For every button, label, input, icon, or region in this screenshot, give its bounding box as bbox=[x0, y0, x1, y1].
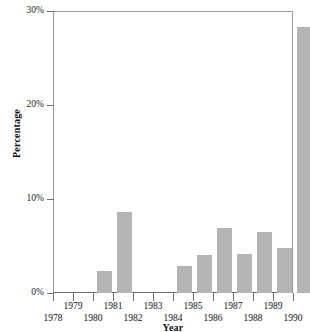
bars-layer bbox=[53, 11, 293, 293]
x-axis-tick bbox=[233, 293, 234, 301]
x-axis-tick bbox=[113, 293, 114, 301]
bar-chart: 0%10%20%30% Percentage 19781979198019811… bbox=[0, 0, 310, 332]
x-axis-tick bbox=[293, 293, 294, 301]
y-axis-tick-label: 0% bbox=[0, 288, 44, 298]
y-axis-tick-label: 10% bbox=[0, 194, 44, 204]
bar-1987 bbox=[237, 254, 252, 293]
bar-1984 bbox=[177, 266, 192, 293]
bar-1988 bbox=[257, 232, 272, 293]
x-axis-tick-label: 1985 bbox=[172, 301, 214, 311]
bar-1990 bbox=[297, 27, 310, 293]
x-axis-tick-label: 1983 bbox=[132, 301, 174, 311]
bar-1980 bbox=[97, 271, 112, 293]
x-axis-title: Year bbox=[53, 322, 293, 332]
bar-1986 bbox=[217, 228, 232, 293]
x-axis-tick-label: 1989 bbox=[252, 301, 294, 311]
bar-1985 bbox=[197, 255, 212, 293]
x-axis-tick bbox=[173, 293, 174, 301]
x-axis-tick bbox=[53, 293, 54, 301]
x-axis-tick-label: 1981 bbox=[92, 301, 134, 311]
y-axis-tick-label: 30% bbox=[0, 6, 44, 16]
x-axis-tick bbox=[213, 293, 214, 301]
x-axis-tick bbox=[133, 293, 134, 301]
x-axis-tick bbox=[273, 293, 274, 301]
x-axis-tick bbox=[153, 293, 154, 301]
x-axis-tick bbox=[93, 293, 94, 301]
x-axis-tick bbox=[193, 293, 194, 301]
x-axis-tick-label: 1979 bbox=[52, 301, 94, 311]
y-axis-tick-label: 20% bbox=[0, 100, 44, 110]
bar-1989 bbox=[277, 248, 292, 293]
bar-1981 bbox=[117, 212, 132, 293]
y-axis-title: Percentage bbox=[11, 74, 22, 194]
x-axis-tick bbox=[73, 293, 74, 301]
x-axis-tick bbox=[253, 293, 254, 301]
x-axis-tick-label: 1987 bbox=[212, 301, 254, 311]
